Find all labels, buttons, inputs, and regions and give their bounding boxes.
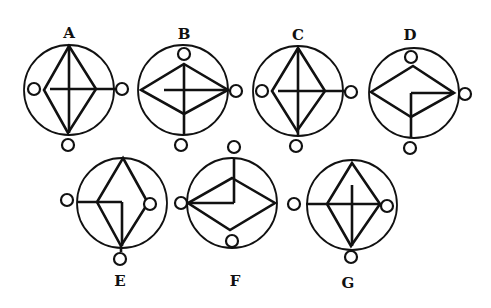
- option-label-f: F: [230, 272, 241, 290]
- small-circle: [178, 48, 190, 60]
- small-circle: [290, 140, 302, 152]
- option-label-c: C: [292, 26, 304, 44]
- small-circle: [288, 198, 300, 210]
- small-circle: [345, 86, 357, 98]
- figure-b: [138, 45, 242, 151]
- small-circle: [256, 85, 268, 97]
- small-circle: [226, 235, 238, 247]
- figures-layer: [24, 45, 471, 265]
- option-label-g: G: [342, 274, 355, 292]
- small-circle: [175, 197, 187, 209]
- small-circle: [405, 51, 417, 63]
- figure-f: [175, 141, 277, 248]
- figure-a: [24, 45, 128, 151]
- figure-d: [369, 48, 471, 154]
- small-circle: [230, 85, 242, 97]
- small-circle: [61, 194, 73, 206]
- small-circle: [404, 142, 416, 154]
- option-label-e: E: [114, 272, 125, 290]
- option-label-b: B: [178, 25, 191, 43]
- figure-e: [61, 158, 167, 265]
- small-circle: [381, 200, 393, 212]
- small-circle: [144, 198, 156, 210]
- small-circle: [116, 83, 128, 95]
- small-circle: [228, 141, 240, 153]
- small-circle: [28, 83, 40, 95]
- small-circle: [345, 251, 357, 263]
- figure-c: [253, 46, 357, 152]
- puzzle-figure: A B C D E F G: [0, 0, 491, 308]
- small-circle: [459, 88, 471, 100]
- diamond-shape: [371, 66, 454, 117]
- small-circle: [175, 139, 187, 151]
- small-circle: [114, 253, 126, 265]
- small-circle: [62, 139, 74, 151]
- option-label-d: D: [403, 26, 416, 44]
- figure-g: [288, 160, 397, 263]
- option-label-a: A: [62, 24, 75, 42]
